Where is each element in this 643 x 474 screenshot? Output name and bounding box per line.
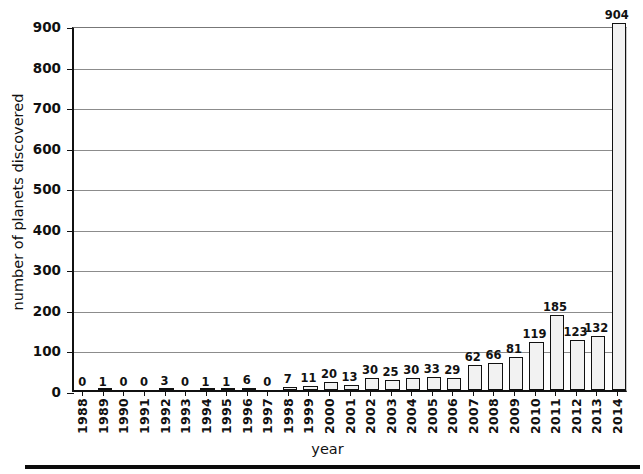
x-tick-2006 bbox=[452, 392, 453, 396]
x-tick-label-2002: 2002 bbox=[363, 398, 378, 434]
x-tick-1994 bbox=[206, 392, 207, 396]
x-tick-1998 bbox=[288, 392, 289, 396]
x-tick-1999 bbox=[308, 392, 309, 396]
x-tick-label-2014: 2014 bbox=[610, 398, 625, 434]
x-tick-label-2013: 2013 bbox=[589, 398, 604, 434]
x-tick-2014 bbox=[617, 392, 618, 396]
x-tick-label-1988: 1988 bbox=[75, 398, 90, 434]
x-tick-2010 bbox=[535, 392, 536, 396]
bottom-divider-rule bbox=[25, 465, 640, 469]
x-tick-2009 bbox=[514, 392, 515, 396]
x-tick-label-2001: 2001 bbox=[343, 398, 358, 434]
x-axis-title: year bbox=[0, 441, 643, 457]
bar-value-label-2013: 132 bbox=[576, 323, 617, 334]
x-tick-1992 bbox=[165, 392, 166, 396]
x-tick-label-1993: 1993 bbox=[178, 398, 193, 434]
bar-value-label-2010: 119 bbox=[514, 329, 555, 340]
x-tick-2012 bbox=[576, 392, 577, 396]
x-tick-1991 bbox=[144, 392, 145, 396]
bar-value-label-2011: 185 bbox=[535, 302, 576, 313]
x-axis-title-text: year bbox=[311, 441, 343, 457]
x-tick-label-2011: 2011 bbox=[548, 398, 563, 434]
x-tick-label-1998: 1998 bbox=[281, 398, 296, 434]
bar-value-label-2009: 81 bbox=[493, 344, 534, 355]
x-tick-1990 bbox=[123, 392, 124, 396]
x-tick-label-1999: 1999 bbox=[301, 398, 316, 434]
x-tick-2002 bbox=[370, 392, 371, 396]
x-tick-2005 bbox=[432, 392, 433, 396]
x-tick-label-1990: 1990 bbox=[116, 398, 131, 434]
x-tick-label-2005: 2005 bbox=[425, 398, 440, 434]
x-tick-label-1994: 1994 bbox=[199, 398, 214, 434]
x-tick-label-1989: 1989 bbox=[96, 398, 111, 434]
x-tick-label-1995: 1995 bbox=[219, 398, 234, 434]
x-tick-2008 bbox=[493, 392, 494, 396]
x-tick-2004 bbox=[411, 392, 412, 396]
x-tick-label-1996: 1996 bbox=[240, 398, 255, 434]
x-tick-label-2012: 2012 bbox=[569, 398, 584, 434]
x-tick-label-2006: 2006 bbox=[445, 398, 460, 434]
x-tick-2013 bbox=[596, 392, 597, 396]
x-tick-1989 bbox=[103, 392, 104, 396]
x-axis-tick-labels: 0198811989019900199131992019931199411995… bbox=[0, 0, 643, 474]
bar-value-label-2014: 904 bbox=[596, 10, 637, 21]
x-tick-label-2009: 2009 bbox=[507, 398, 522, 434]
x-tick-2001 bbox=[350, 392, 351, 396]
x-tick-2003 bbox=[391, 392, 392, 396]
chart-figure: number of planets discovered 01002003004… bbox=[0, 0, 643, 474]
bar-value-label-2006: 29 bbox=[432, 365, 473, 376]
x-tick-1996 bbox=[247, 392, 248, 396]
x-tick-1988 bbox=[82, 392, 83, 396]
x-tick-1995 bbox=[226, 392, 227, 396]
x-tick-label-2000: 2000 bbox=[322, 398, 337, 434]
x-tick-label-2008: 2008 bbox=[486, 398, 501, 434]
x-tick-label-2010: 2010 bbox=[528, 398, 543, 434]
x-tick-2000 bbox=[329, 392, 330, 396]
x-tick-label-1997: 1997 bbox=[260, 398, 275, 434]
x-tick-label-1991: 1991 bbox=[137, 398, 152, 434]
x-tick-label-1992: 1992 bbox=[158, 398, 173, 434]
x-tick-2007 bbox=[473, 392, 474, 396]
x-tick-1997 bbox=[267, 392, 268, 396]
x-tick-label-2007: 2007 bbox=[466, 398, 481, 434]
x-tick-2011 bbox=[555, 392, 556, 396]
x-tick-label-2003: 2003 bbox=[384, 398, 399, 434]
x-tick-label-2004: 2004 bbox=[404, 398, 419, 434]
x-tick-1993 bbox=[185, 392, 186, 396]
